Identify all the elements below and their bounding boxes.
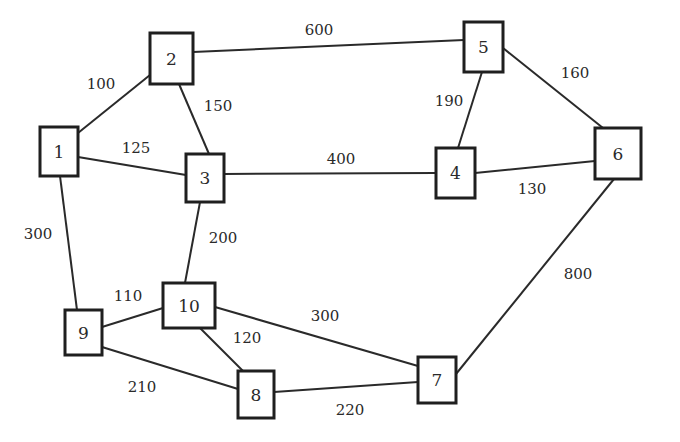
- edge-weight-2-5: 600: [305, 21, 334, 39]
- edge-weight-3-10: 200: [209, 229, 238, 247]
- node-label: 4: [450, 163, 461, 183]
- node-7: 7: [418, 357, 456, 403]
- edge-3-4: [224, 173, 436, 174]
- node-6: 6: [595, 128, 641, 179]
- edge-weights-layer: 1001253001506004002001901601308001102101…: [24, 21, 593, 419]
- edge-1-3: [78, 157, 186, 175]
- edge-weight-5-4: 190: [435, 92, 464, 110]
- network-graph-diagram: 1001253001506004002001901601308001102101…: [0, 0, 680, 442]
- edge-9-8: [102, 347, 238, 389]
- node-5: 5: [464, 22, 503, 72]
- edge-8-7: [274, 382, 418, 392]
- edge-3-10: [185, 202, 200, 283]
- edge-weight-1-9: 300: [24, 225, 53, 243]
- edges-layer: [60, 40, 614, 392]
- node-4: 4: [436, 148, 475, 198]
- edge-weight-5-6: 160: [561, 64, 590, 82]
- edge-weight-9-10: 110: [114, 287, 143, 305]
- edge-weight-1-2: 100: [87, 75, 116, 93]
- edge-weight-6-7: 800: [564, 265, 593, 283]
- node-label: 7: [432, 370, 443, 390]
- edge-5-6: [503, 48, 603, 128]
- edge-2-5: [193, 40, 464, 52]
- node-label: 3: [200, 168, 211, 188]
- edge-9-10: [102, 308, 163, 327]
- node-label: 2: [166, 49, 177, 69]
- edge-weight-4-6: 130: [518, 180, 547, 198]
- node-9: 9: [65, 310, 102, 355]
- edge-weight-9-8: 210: [128, 378, 157, 396]
- node-3: 3: [186, 154, 224, 202]
- edge-weight-10-8: 120: [233, 329, 262, 347]
- edge-weight-3-4: 400: [327, 150, 356, 168]
- node-10: 10: [163, 283, 215, 328]
- node-label: 10: [178, 296, 200, 316]
- edge-2-3: [179, 84, 209, 154]
- node-label: 5: [478, 37, 489, 57]
- nodes-layer: 12345678910: [40, 22, 641, 418]
- node-1: 1: [40, 127, 78, 176]
- node-label: 8: [251, 385, 262, 405]
- node-8: 8: [238, 371, 274, 418]
- edge-4-6: [475, 161, 595, 173]
- edge-weight-1-3: 125: [122, 139, 151, 157]
- node-label: 6: [613, 144, 624, 164]
- edge-weight-10-7: 300: [311, 307, 340, 325]
- node-label: 1: [54, 142, 65, 162]
- edge-weight-2-3: 150: [204, 97, 233, 115]
- edge-weight-8-7: 220: [336, 401, 365, 419]
- node-2: 2: [150, 33, 193, 84]
- edge-1-9: [60, 176, 77, 310]
- node-label: 9: [78, 323, 89, 343]
- edge-5-4: [458, 72, 482, 148]
